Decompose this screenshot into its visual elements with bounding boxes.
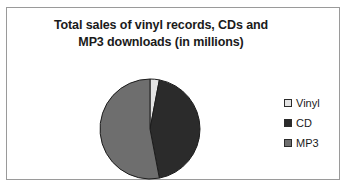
chart-frame: Total sales of vinyl records, CDs and MP… bbox=[6, 7, 340, 180]
legend-item-cd[interactable]: CD bbox=[284, 113, 346, 133]
chart-title-line-2: MP3 downloads (in millions) bbox=[21, 34, 301, 51]
chart-legend: Vinyl CD MP3 bbox=[284, 93, 346, 153]
legend-label-vinyl: Vinyl bbox=[296, 97, 320, 109]
chart-title: Total sales of vinyl records, CDs and MP… bbox=[21, 17, 301, 51]
legend-label-mp3: MP3 bbox=[296, 137, 319, 149]
pie-slice-cd[interactable] bbox=[150, 80, 200, 178]
legend-item-vinyl[interactable]: Vinyl bbox=[284, 93, 346, 113]
pie-chart-plot-area bbox=[94, 73, 206, 185]
legend-swatch-mp3 bbox=[284, 139, 292, 147]
legend-item-mp3[interactable]: MP3 bbox=[284, 133, 346, 153]
chart-title-line-1: Total sales of vinyl records, CDs and bbox=[21, 17, 301, 34]
legend-swatch-cd bbox=[284, 119, 292, 127]
pie-slice-mp3[interactable] bbox=[100, 79, 159, 179]
pie-slice-group bbox=[100, 79, 200, 179]
pie-chart-svg bbox=[94, 73, 206, 185]
legend-label-cd: CD bbox=[296, 117, 312, 129]
legend-swatch-vinyl bbox=[284, 99, 292, 107]
